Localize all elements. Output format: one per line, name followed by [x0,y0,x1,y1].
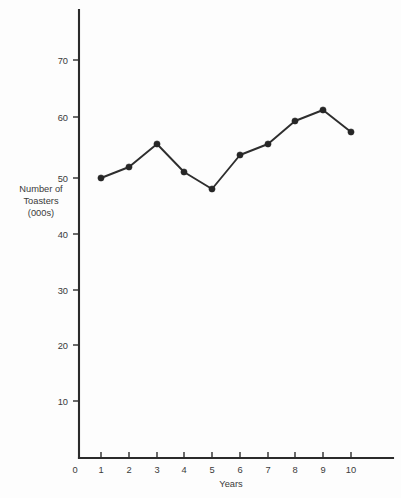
y-tick-labels: 70 60 50 40 30 20 10 [58,56,68,407]
y-axis-title-line-2: Toasters [23,196,58,206]
y-axis-title: Number of Toasters (000s) [19,184,63,218]
data-point-3[interactable] [154,141,160,147]
y-tick-label-70: 70 [58,56,68,66]
x-tick-labels: 0 1 2 3 4 5 6 7 8 9 10 [72,465,356,475]
x-tick-label-10: 10 [346,465,356,475]
x-tick-label-9: 9 [320,465,325,475]
x-tick-label-7: 7 [265,465,270,475]
y-tick-label-30: 30 [58,286,68,296]
x-tick-label-1: 1 [98,465,103,475]
x-tick-label-4: 4 [181,465,186,475]
x-tick-label-2: 2 [126,465,131,475]
data-point-5[interactable] [209,186,215,192]
x-tick-label-6: 6 [237,465,242,475]
axes-group [79,10,393,458]
x-tick-label-0: 0 [72,465,77,475]
data-point-7[interactable] [265,141,271,147]
data-point-1[interactable] [98,175,104,181]
data-series-toasters [98,107,354,192]
y-tick-label-40: 40 [58,230,68,240]
chart-canvas: 70 60 50 40 30 20 10 0 1 2 3 4 [0,0,401,498]
x-tick-label-5: 5 [209,465,214,475]
data-point-9[interactable] [320,107,326,113]
y-tick-label-60: 60 [58,113,68,123]
x-axis-title: Years [219,479,243,489]
y-tick-label-20: 20 [58,341,68,351]
x-tick-label-3: 3 [154,465,159,475]
data-point-8[interactable] [292,118,298,124]
line-chart: 70 60 50 40 30 20 10 0 1 2 3 4 [0,0,401,498]
data-point-10[interactable] [348,129,354,135]
series-line-toasters [101,110,351,189]
y-tick-label-10: 10 [58,397,68,407]
y-axis-title-line-1: Number of [19,184,63,194]
x-tick-label-8: 8 [292,465,297,475]
data-point-6[interactable] [237,152,243,158]
data-point-2[interactable] [126,164,132,170]
data-point-4[interactable] [181,169,187,175]
y-axis-title-line-3: (000s) [28,208,54,218]
y-tick-label-50: 50 [58,174,68,184]
